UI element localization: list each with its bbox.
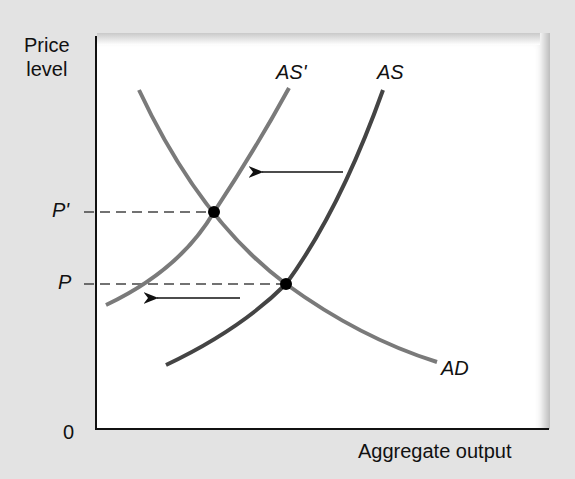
ad-curve — [139, 90, 437, 362]
origin-label: 0 — [63, 421, 74, 444]
equilibrium-p-prime-dot — [208, 206, 220, 218]
equilibrium-p-dot — [280, 278, 292, 290]
as-prime-label: AS' — [276, 61, 307, 84]
y-axis-label-line1: Price — [24, 33, 70, 57]
p-tick-label: P — [58, 271, 71, 294]
ad-label: AD — [441, 357, 469, 380]
y-axis-label: Price level — [24, 33, 70, 81]
x-axis-label: Aggregate output — [358, 440, 511, 463]
as-prime-curve — [106, 88, 289, 305]
p-prime-tick-label: P' — [52, 199, 69, 222]
y-axis-label-line2: level — [24, 57, 70, 81]
as-label: AS — [377, 61, 404, 84]
